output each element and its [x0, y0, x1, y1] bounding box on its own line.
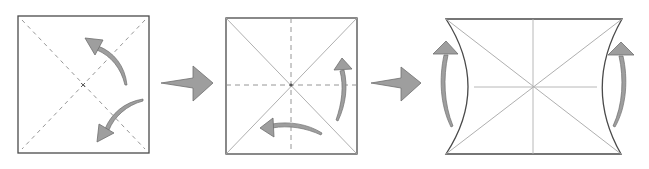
step-arrow-2-icon — [371, 67, 421, 101]
step-3-fold-arrow-right-icon — [608, 42, 634, 127]
origami-diagram — [0, 0, 649, 169]
step-1-panel — [18, 16, 149, 153]
step-2-center-dot-icon — [289, 83, 292, 86]
step-3-panel — [433, 19, 634, 154]
step-2-panel — [226, 18, 357, 154]
step-3-fold-arrow-left-icon — [433, 41, 458, 127]
step-arrow-1-icon — [161, 66, 213, 101]
